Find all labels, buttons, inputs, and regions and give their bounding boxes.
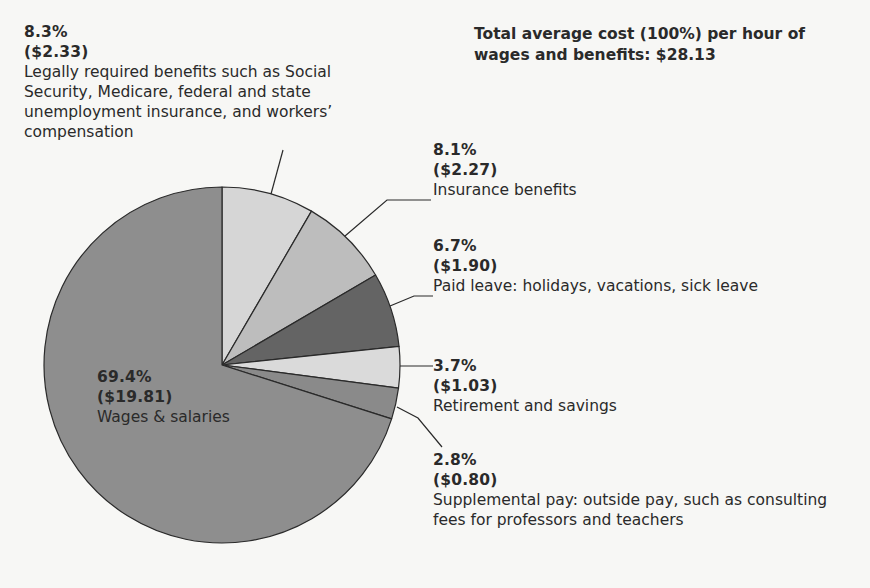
supplemental-desc: Supplemental pay: outside pay, such as c… [433,490,853,530]
label-paid-leave: 6.7% ($1.90) Paid leave: holidays, vacat… [433,236,863,296]
legal-desc: Legally required benefits such as Social… [24,62,384,142]
paid-leave-pct: 6.7% [433,236,863,256]
legal-amount: ($2.33) [24,42,384,62]
chart-title: Total average cost (100%) per hour of wa… [474,24,854,66]
pie-slices [44,187,400,543]
paid-leave-desc: Paid leave: holidays, vacations, sick le… [433,276,863,296]
insurance-pct: 8.1% [433,140,853,160]
leader-line-insurance [345,200,431,236]
label-legal-benefits: 8.3% ($2.33) Legally required benefits s… [24,22,384,142]
label-supplemental: 2.8% ($0.80) Supplemental pay: outside p… [433,450,853,530]
wages-amount: ($19.81) [97,387,337,407]
leader-line-paid-leave [390,296,433,306]
label-retirement: 3.7% ($1.03) Retirement and savings [433,356,853,416]
insurance-amount: ($2.27) [433,160,853,180]
label-wages: 69.4% ($19.81) Wages & salaries [97,367,337,427]
wages-pct: 69.4% [97,367,337,387]
label-insurance: 8.1% ($2.27) Insurance benefits [433,140,853,200]
leader-line-legal [271,150,283,194]
retirement-amount: ($1.03) [433,376,853,396]
retirement-pct: 3.7% [433,356,853,376]
paid-leave-amount: ($1.90) [433,256,863,276]
legal-pct: 8.3% [24,22,384,42]
wages-desc: Wages & salaries [97,407,337,427]
supplemental-amount: ($0.80) [433,470,853,490]
retirement-desc: Retirement and savings [433,396,853,416]
supplemental-pct: 2.8% [433,450,853,470]
insurance-desc: Insurance benefits [433,180,853,200]
